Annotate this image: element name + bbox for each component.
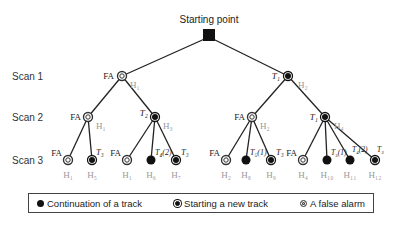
ringed-filled-circle-icon [175, 201, 180, 206]
hypothesis-label: H₉ [266, 170, 276, 180]
node-label: T₃ [96, 147, 104, 157]
hypothesis-label: H₇ [171, 170, 181, 180]
tree-edges [68, 37, 375, 160]
hypothesis-label: H₁₀ [321, 170, 334, 180]
false-alarm-node [64, 156, 73, 165]
node-label: T₁ [310, 112, 318, 122]
hypothesis-label: H₂ [298, 80, 308, 90]
new-track-node [321, 113, 330, 122]
legend-continuation-label: Continuation of a track [47, 198, 142, 209]
false-alarm-node [84, 113, 93, 122]
filled-circle-icon [37, 200, 44, 207]
new-track-node [371, 156, 380, 165]
hypothesis-label: H₄ [298, 170, 308, 180]
scan-1-label: Scan 1 [12, 71, 44, 82]
new-track-node [284, 72, 293, 81]
legend-continuation: Continuation of a track [37, 198, 142, 209]
scan-2-label: Scan 2 [12, 112, 44, 123]
node-label: FA [234, 112, 245, 122]
hypothesis-label: H₂ [260, 121, 270, 131]
legend-new-track: Starting a new track [174, 198, 268, 209]
double-ring-icon [300, 200, 307, 207]
node-label: T₃ [377, 145, 384, 154]
node-label: FA [103, 71, 114, 81]
new-track-node [172, 156, 181, 165]
legend-new-track-label: Starting a new track [184, 198, 268, 209]
false-alarm-node [222, 156, 231, 165]
hypothesis-label: H₁ [130, 80, 140, 90]
node-label: FA [209, 148, 220, 158]
hypothesis-label: H₁ [122, 170, 132, 180]
continuation-node [346, 156, 355, 165]
scan-3-label: Scan 3 [12, 155, 44, 166]
hypothesis-label: H₁ [96, 121, 106, 131]
starting-point-square [203, 29, 215, 41]
false-alarm-node [299, 156, 308, 165]
node-label: FA [70, 112, 81, 122]
new-track-node [267, 156, 276, 165]
hypothesis-label: H₁₂ [369, 170, 382, 180]
hypothesis-label: H₆ [146, 170, 156, 180]
node-label: T₂ [140, 108, 148, 118]
node-label: FA [51, 148, 62, 158]
false-alarm-node [248, 113, 257, 122]
node-label: T₄(2) [352, 145, 368, 154]
node-label: T₃ [181, 147, 189, 157]
hypothesis-label: H₃ [163, 121, 173, 131]
node-label: FA [286, 148, 297, 158]
hypothesis-label: H₂ [221, 170, 231, 180]
node-label: T₅(1) [331, 148, 347, 157]
node-label: T₁ [272, 71, 280, 81]
node-label: T₃ [276, 147, 284, 157]
legend-false-alarm-label: A false alarm [310, 198, 365, 209]
legend: Continuation of a track Starting a new t… [28, 193, 374, 213]
new-track-node [151, 113, 160, 122]
hypothesis-label: H₄ [334, 121, 344, 131]
hypothesis-label: H₈ [241, 170, 251, 180]
false-alarm-node [123, 156, 132, 165]
hypothesis-label: H₁₁ [344, 170, 357, 180]
legend-false-alarm: A false alarm [300, 198, 365, 209]
node-label: T₄(2) [155, 148, 172, 157]
hypothesis-label: H₅ [87, 170, 97, 180]
node-label: T₅(1) [250, 148, 267, 157]
node-label: FA [110, 148, 121, 158]
starting-point-label: Starting point [180, 14, 239, 25]
false-alarm-node [118, 72, 127, 81]
hypothesis-label: H₁ [63, 170, 73, 180]
